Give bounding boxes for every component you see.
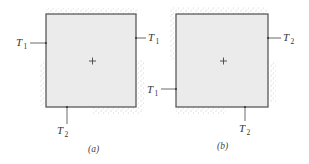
label-t2-bottom-b: T [239,122,246,134]
caption-b: (b) [217,141,228,152]
sub-t2-bottom-b: 2 [247,128,251,137]
label-t1-right-a: T [148,31,155,43]
label-t1-left-a: T [16,36,23,48]
insulation-bottom-a [93,107,143,114]
slab-a [46,14,136,107]
sub-t1-right-a: 1 [156,37,160,46]
label-t2-bottom-a: T [57,124,64,136]
slab-b [176,14,268,107]
sub-t2-bottom-a: 2 [65,130,69,139]
sub-t1-left-a: 1 [24,42,28,51]
label-t1-left-b: T [147,83,154,95]
insulation-right-b [268,62,276,102]
panel-a: T 1 T 1 T 2 (a) [16,8,160,155]
insulation-right-a [136,60,144,108]
sub-t1-left-b: 1 [155,89,159,98]
panel-b: T 2 T 1 T 2 (b) [147,7,295,152]
figure-canvas: T 1 T 1 T 2 (a) T 2 T 1 [0,0,309,164]
insulation-bottom-b [176,107,226,114]
sub-t2-right-b: 2 [291,37,295,46]
label-t2-right-b: T [283,31,290,43]
caption-a: (a) [88,144,99,155]
